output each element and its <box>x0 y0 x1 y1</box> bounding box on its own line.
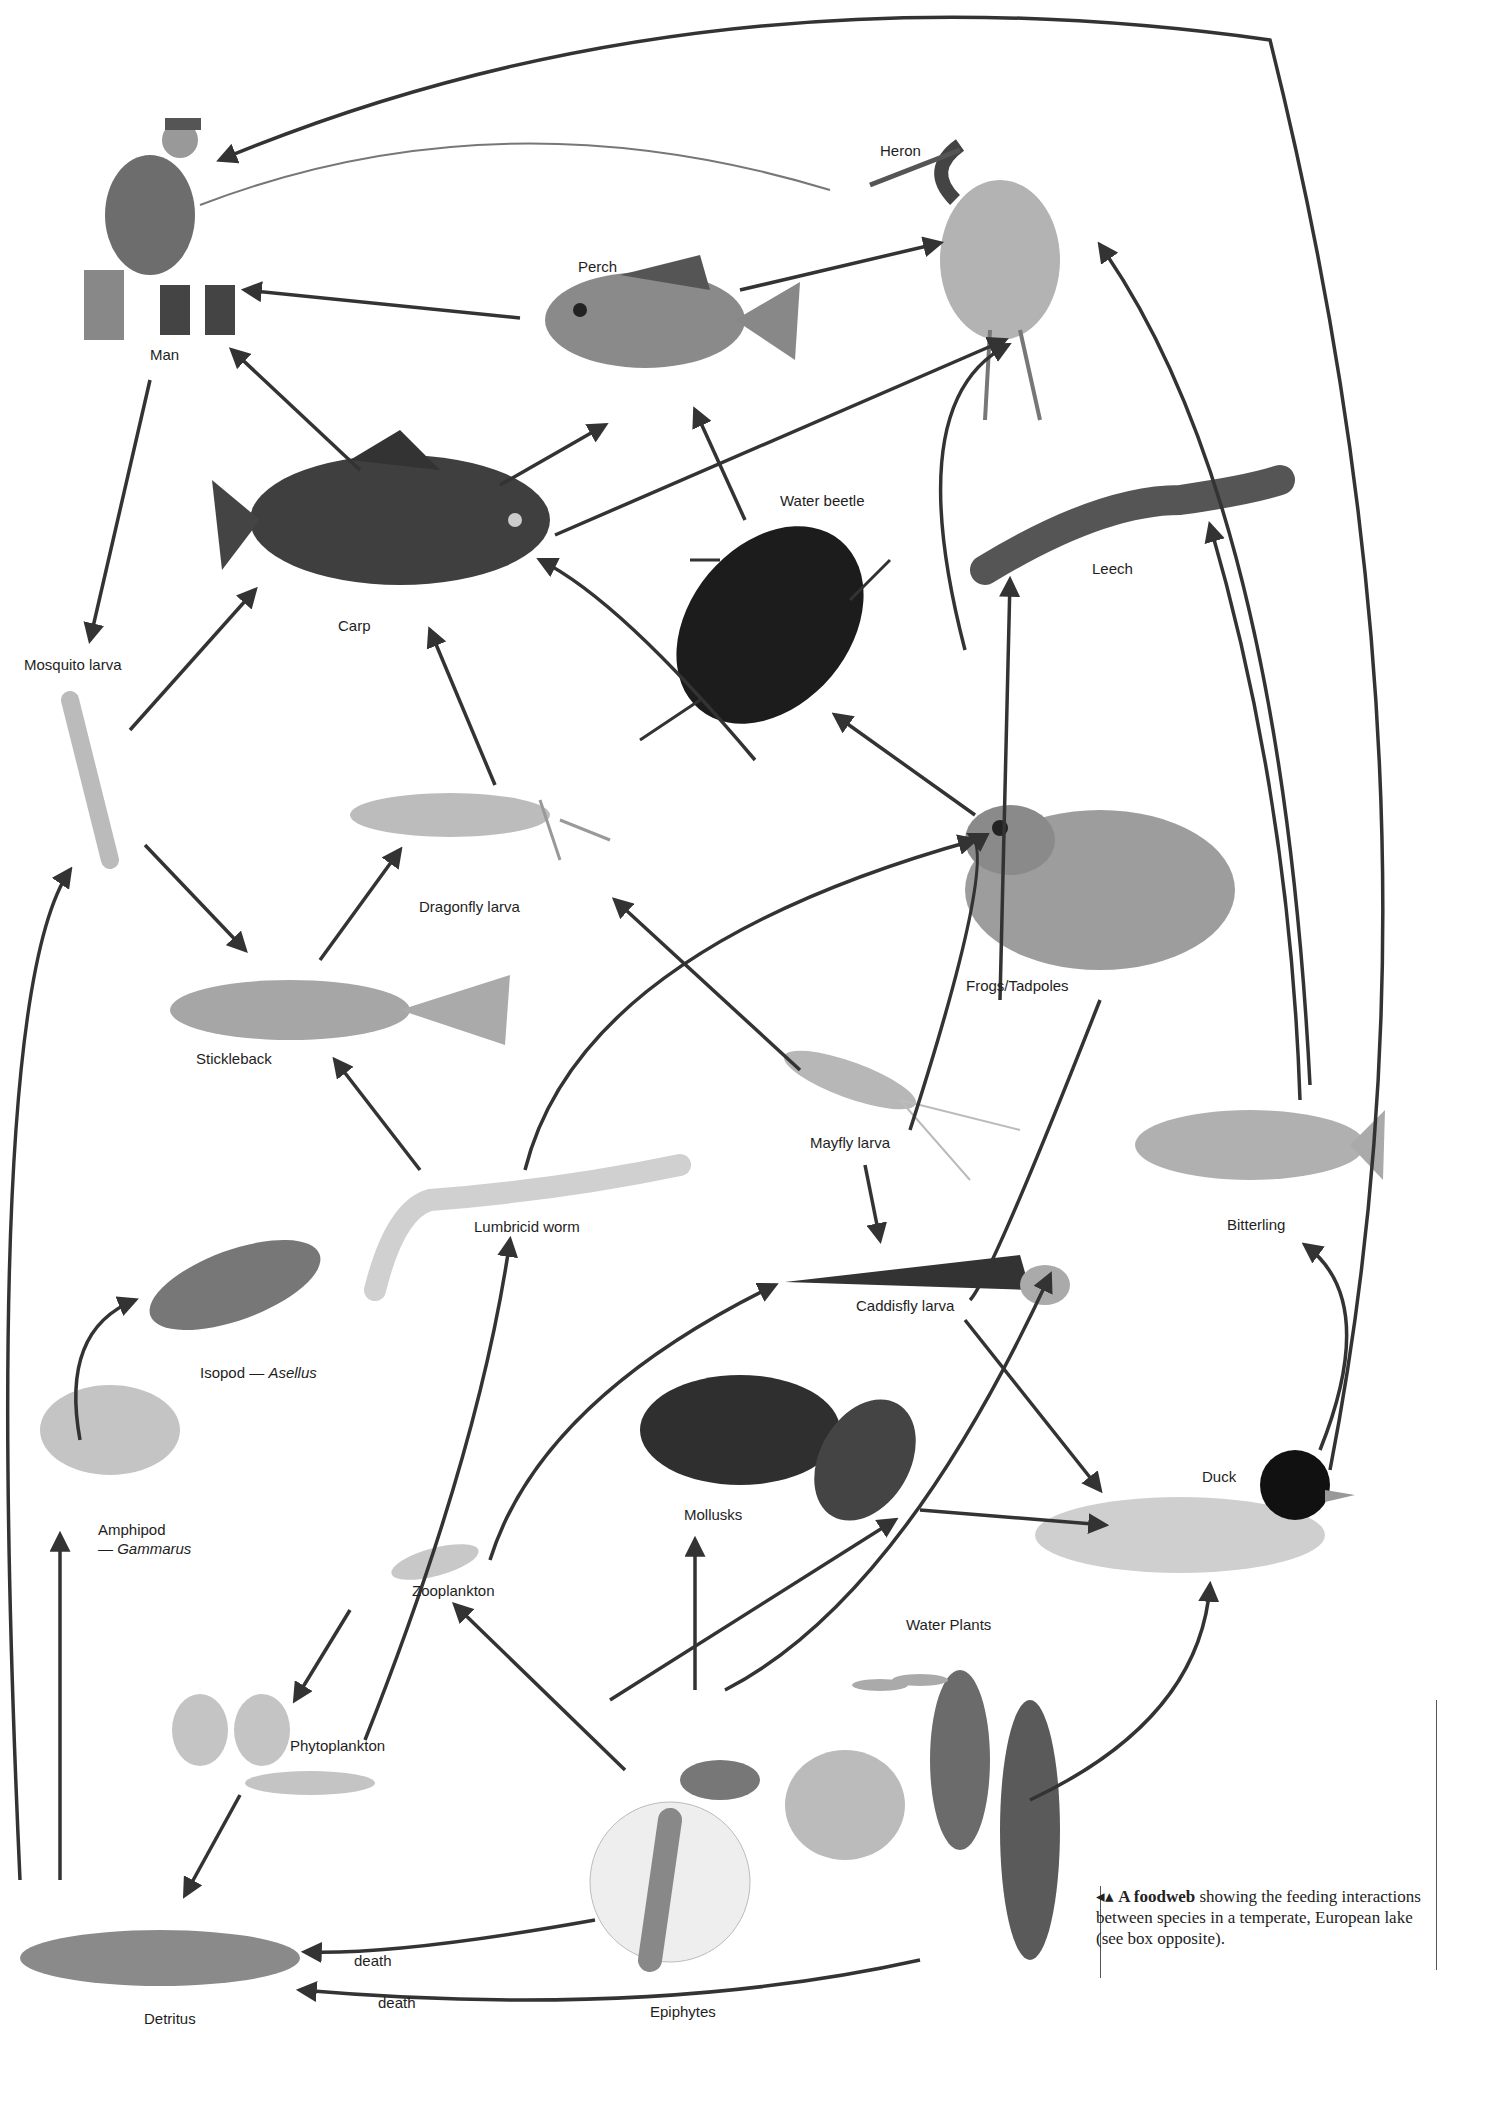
mayfly-larva-illustration <box>778 1039 1020 1180</box>
node-label-lumbricid-worm: Lumbricid worm <box>474 1218 580 1235</box>
node-label-epiphytes: Epiphytes <box>650 2003 716 2020</box>
water-beetle-illustration <box>638 489 902 760</box>
node-label-mosquito-larva: Mosquito larva <box>24 656 122 673</box>
isopod-common-name: Isopod — <box>200 1364 268 1381</box>
stickleback-illustration <box>170 975 510 1045</box>
amphipod-illustration <box>40 1385 180 1475</box>
node-label-mayfly-larva: Mayfly larva <box>810 1134 890 1151</box>
node-label-caddisfly-larva: Caddisfly larva <box>856 1297 954 1314</box>
caption-bold: A foodweb <box>1118 1887 1195 1906</box>
epiphytes-illustration <box>590 1760 760 1962</box>
amphipod-genus: Gammarus <box>117 1540 191 1557</box>
node-label-mollusks: Mollusks <box>684 1506 742 1523</box>
node-label-isopod: Isopod — Asellus <box>200 1364 317 1381</box>
mosquito-larva-illustration <box>70 700 110 860</box>
node-label-phytoplankton: Phytoplankton <box>290 1737 385 1754</box>
node-label-man: Man <box>150 346 179 363</box>
water-plants-illustration <box>785 1670 1060 1960</box>
edge-label-death-2: death <box>378 1994 416 2011</box>
heron-illustration <box>870 145 1060 420</box>
figure-caption: ◂▴ A foodweb showing the feeding interac… <box>1096 1886 1426 1949</box>
node-label-duck: Duck <box>1202 1468 1236 1485</box>
node-label-water-plants: Water Plants <box>906 1616 991 1633</box>
node-label-zooplankton: Zooplankton <box>412 1582 495 1599</box>
node-label-carp: Carp <box>338 617 371 634</box>
isopod-genus: Asellus <box>268 1364 316 1381</box>
isopod-illustration <box>138 1221 331 1348</box>
column-divider <box>1436 1700 1437 1970</box>
node-label-frogs-tadpoles: Frogs/Tadpoles <box>966 977 1069 994</box>
caption-marker: ◂▴ <box>1096 1887 1114 1906</box>
node-label-bitterling: Bitterling <box>1227 1216 1285 1233</box>
node-label-detritus: Detritus <box>144 2010 196 2027</box>
node-label-stickleback: Stickleback <box>196 1050 272 1067</box>
carp-illustration <box>212 430 550 585</box>
detritus-illustration <box>20 1930 300 1986</box>
node-label-water-beetle: Water beetle <box>780 492 865 509</box>
node-label-dragonfly-larva: Dragonfly larva <box>419 898 520 915</box>
amphipod-common-name: Amphipod <box>98 1521 166 1538</box>
node-label-amphipod: Amphipod— Gammarus <box>98 1520 191 1558</box>
node-label-leech: Leech <box>1092 560 1133 577</box>
dragonfly-larva-illustration <box>350 793 610 860</box>
edge-label-death-1: death <box>354 1952 392 1969</box>
amphipod-dash: — <box>98 1540 117 1557</box>
bitterling-illustration <box>1135 1110 1385 1180</box>
node-label-heron: Heron <box>880 142 921 159</box>
node-label-perch: Perch <box>578 258 617 275</box>
